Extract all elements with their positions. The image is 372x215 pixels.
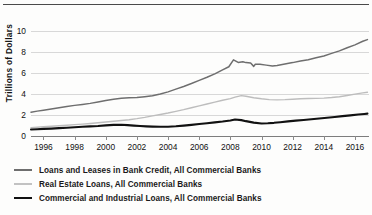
x-axis-tick-label: 2008 [221,142,240,152]
x-axis-tick-mark [293,136,294,140]
x-axis-tick-mark [199,136,200,140]
x-axis-tick-mark [106,136,107,140]
y-axis-tick-label: 8 [4,47,26,57]
x-axis-tick-label: 2006 [190,142,209,152]
series-line [31,114,367,130]
legend-line-swatch [14,183,32,184]
plot-area: 0246810 19961998200020022004200620082010… [31,21,369,136]
y-axis-tick-label: 2 [4,110,26,120]
y-axis-tick-label: 4 [4,89,26,99]
x-axis-tick-mark [324,136,325,140]
x-axis-tick-mark [137,136,138,140]
y-axis-tick-label: 6 [4,68,26,78]
y-axis-title: Trillions of Dollars [4,8,14,118]
x-axis-tick-label: 2002 [128,142,147,152]
legend-item-label: Commercial and Industrial Loans, All Com… [39,194,262,203]
y-axis-tick-label: 0 [4,131,26,141]
legend-item-label: Loans and Leases in Bank Credit, All Com… [39,166,261,175]
x-axis-tick-mark [262,136,263,140]
x-axis-tick-label: 2004 [159,142,178,152]
legend-item[interactable]: Commercial and Industrial Loans, All Com… [14,191,364,205]
legend-item[interactable]: Real Estate Loans, All Commercial Banks [14,177,364,191]
series-lines-group [31,21,369,136]
x-axis-tick-mark [168,136,169,140]
legend-item-label: Real Estate Loans, All Commercial Banks [39,180,202,189]
chart-container: Trillions of Dollars 0246810 19961998200… [0,0,372,160]
x-axis-tick-label: 2010 [252,142,271,152]
legend-item[interactable]: Loans and Leases in Bank Credit, All Com… [14,163,364,177]
x-axis-tick-label: 2000 [96,142,115,152]
x-axis-tick-mark [355,136,356,140]
x-axis-tick-label: 2016 [346,142,365,152]
x-axis-tick-mark [43,136,44,140]
chart-legend: Loans and Leases in Bank Credit, All Com… [14,163,364,205]
x-axis-tick-label: 2014 [315,142,334,152]
x-axis-tick-mark [75,136,76,140]
x-axis-tick-mark [230,136,231,140]
legend-line-swatch [14,197,32,199]
y-axis-tick-label: 10 [4,26,26,36]
series-line [31,92,367,127]
series-line [31,40,367,113]
x-axis-tick-label: 2012 [283,142,302,152]
x-axis-tick-label: 1998 [65,142,84,152]
x-axis-tick-label: 1996 [34,142,53,152]
legend-line-swatch [14,169,32,171]
